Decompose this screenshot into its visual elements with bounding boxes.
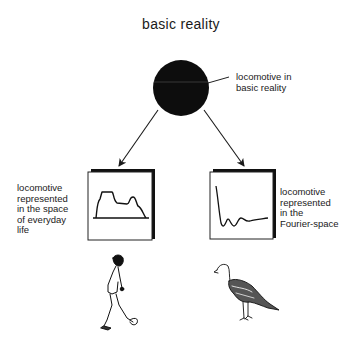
turkey-illustration [214, 264, 279, 320]
right-branch-label: locomotive represented in the Fourier-sp… [280, 187, 339, 229]
walking-man-illustration [101, 255, 137, 330]
space-domain-panel [88, 169, 155, 240]
diagram-canvas [0, 0, 362, 352]
fourier-domain-panel [210, 169, 276, 239]
center-node-label: locomotive in basic reality [236, 72, 291, 93]
center-label-leader [208, 77, 229, 83]
left-branch-label: locomotive represented in the space of e… [17, 183, 68, 236]
center-node-circle [153, 60, 209, 116]
arrow-right [204, 110, 244, 166]
arrow-left [119, 110, 158, 166]
